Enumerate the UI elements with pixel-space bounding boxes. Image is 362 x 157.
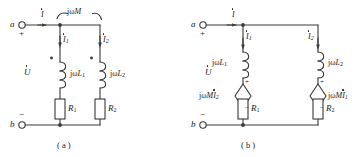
resistor-R1-body-a <box>55 99 65 119</box>
source-voltage-label-b: U <box>205 68 212 77</box>
dependent-source-2-minus-b: − <box>320 105 324 112</box>
mutual-arc-left-a <box>57 13 68 18</box>
dependent-source-1-minus-b: − <box>245 105 249 112</box>
current-arrow-I-b <box>227 23 236 27</box>
terminal-label-b-b: b <box>191 120 196 129</box>
current-label-I1-a: I1 <box>63 36 69 44</box>
dependent-source-label-1-b: jωMI2 <box>199 92 219 100</box>
node-dot-bottom-a <box>58 123 62 127</box>
polarity-minus-b: − <box>200 110 205 119</box>
figure-container: a + b − U I I1 I2 jωM jωL1 jωL2 R1 R2 <box>0 0 362 157</box>
current-arrow-I1-b <box>241 38 245 50</box>
node-dot-top-a <box>58 23 62 27</box>
current-arrow-I2-a <box>98 36 102 48</box>
polarity-plus-b: + <box>200 29 205 38</box>
caption-b: ( b ) <box>241 140 255 150</box>
circuit-b-svg <box>181 0 362 157</box>
source-voltage-label-a: U <box>24 68 31 77</box>
mutual-arc-right-a <box>93 13 102 19</box>
terminal-b-circle-b <box>200 122 206 128</box>
circuit-a-svg <box>0 0 181 157</box>
inductor-L1-coil-b <box>243 52 249 78</box>
current-label-I1-b: I1 <box>246 33 252 41</box>
circuit-diagram-b: a + b − U I I1 I2 jωL1 jωL2 jωMI2 + − jω… <box>181 0 362 157</box>
resistor-label-R1-b: R1 <box>251 104 260 113</box>
inductor-label-L1-b: jωL1 <box>212 59 227 67</box>
node-dot-bottom-b <box>241 123 245 127</box>
resistor-R2-body-a <box>95 99 105 119</box>
inductor-label-L2-a: jωL2 <box>110 70 125 78</box>
terminal-label-a: a <box>10 20 15 29</box>
inductor-L1-coil-a <box>60 62 66 88</box>
coupling-dot-L2-a <box>90 57 93 60</box>
current-label-I-a: I <box>41 11 44 19</box>
polarity-minus-a: − <box>19 110 24 119</box>
inductor-L2-coil-b <box>318 52 324 78</box>
dependent-source-label-2-b: jωMI1 <box>328 92 348 100</box>
caption-a: ( a ) <box>57 140 71 150</box>
resistor-label-R2-b: R2 <box>326 104 335 113</box>
circuit-diagram-a: a + b − U I I1 I2 jωM jωL1 jωL2 R1 R2 <box>0 0 181 157</box>
current-label-I2-a: I2 <box>103 36 109 44</box>
current-label-I-b: I <box>232 11 235 19</box>
inductor-label-L2-b: jωL2 <box>328 59 343 67</box>
current-label-I2-b: I2 <box>308 33 314 41</box>
current-arrow-I2-b <box>316 38 320 50</box>
terminal-label-b: b <box>10 120 15 129</box>
inductor-label-L1-a: jωL1 <box>70 70 85 78</box>
dependent-source-1-plus-b: + <box>245 79 249 86</box>
current-arrow-I-a <box>38 23 46 27</box>
coupling-dot-L1-a <box>50 57 53 60</box>
dependent-source-2-plus-b: + <box>320 79 324 86</box>
polarity-plus-a: + <box>19 29 24 38</box>
resistor-label-R2-a: R2 <box>108 104 117 113</box>
resistor-label-R1-a: R1 <box>68 104 77 113</box>
node-dot-top-b <box>241 23 245 27</box>
mutual-inductance-label-a: jωM <box>67 8 81 16</box>
current-arrow-I1-a <box>58 35 62 48</box>
inductor-L2-coil-a <box>100 62 106 88</box>
terminal-label-a-b: a <box>191 20 196 29</box>
terminal-b-circle <box>19 122 25 128</box>
